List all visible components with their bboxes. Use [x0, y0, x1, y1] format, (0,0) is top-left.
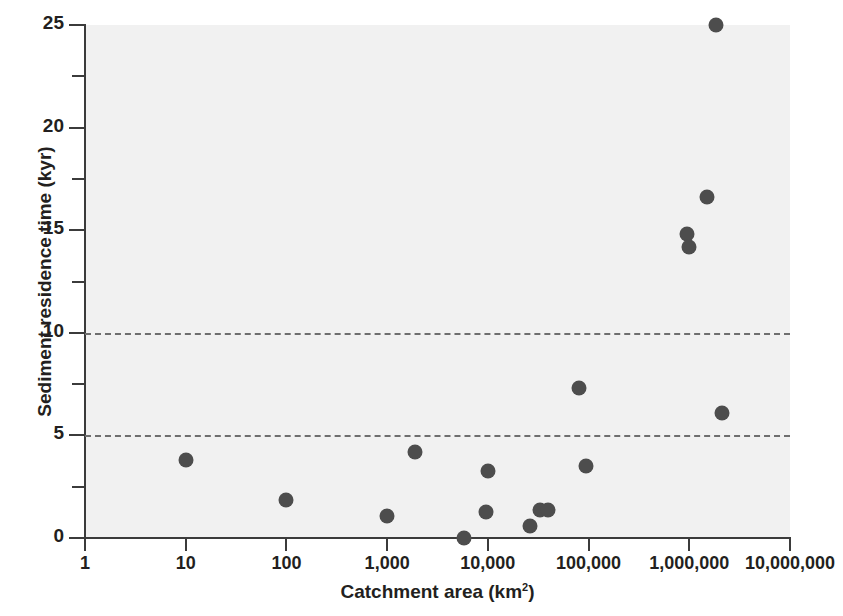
- data-point: [709, 18, 724, 33]
- x-tick-label-1000: 1,000: [365, 553, 410, 574]
- x-tick-100: [285, 538, 287, 551]
- x-axis-title-text: Catchment area (km: [340, 581, 522, 602]
- scatter-chart-figure: 0510152025 1101001,00010,000100,0001,000…: [0, 0, 843, 616]
- data-point: [480, 464, 495, 479]
- data-point: [541, 503, 556, 518]
- x-tick-1000000: [688, 538, 690, 551]
- y-tick-0: [69, 537, 85, 539]
- x-tick-10000: [487, 538, 489, 551]
- x-tick-10000000: [789, 538, 791, 551]
- data-point: [478, 505, 493, 520]
- x-tick-label-1: 1: [80, 553, 90, 574]
- x-axis-title: Catchment area (km2): [85, 581, 790, 603]
- y-tick-minor-17.5: [72, 178, 85, 180]
- x-tick-label-10: 10: [176, 553, 196, 574]
- y-tick-minor-7.5: [72, 383, 85, 385]
- data-point: [682, 239, 697, 254]
- y-tick-minor-22.5: [72, 75, 85, 77]
- x-axis-line: [84, 537, 791, 539]
- x-tick-label-10000: 10,000: [460, 553, 515, 574]
- y-tick-minor-12.5: [72, 281, 85, 283]
- data-point: [457, 531, 472, 546]
- y-tick-20: [69, 127, 85, 129]
- x-tick-100000: [588, 538, 590, 551]
- x-tick-1000: [386, 538, 388, 551]
- x-tick-label-100: 100: [271, 553, 301, 574]
- reference-line-y-10: [85, 333, 790, 335]
- y-tick-minor-2.5: [72, 486, 85, 488]
- x-tick-label-1000000: 1,000,000: [649, 553, 729, 574]
- x-tick-10: [185, 538, 187, 551]
- x-tick-1: [84, 538, 86, 551]
- reference-line-y-5: [85, 435, 790, 437]
- data-point: [408, 444, 423, 459]
- y-tick-25: [69, 24, 85, 26]
- data-point: [579, 459, 594, 474]
- y-tick-5: [69, 434, 85, 436]
- data-point: [380, 509, 395, 524]
- data-point: [571, 381, 586, 396]
- x-axis-title-tail: ): [528, 581, 534, 602]
- data-point: [178, 453, 193, 468]
- y-tick-15: [69, 229, 85, 231]
- y-axis-title: Sediment residence time (kyr): [30, 25, 60, 538]
- data-point: [700, 190, 715, 205]
- data-point: [714, 405, 729, 420]
- data-point: [522, 518, 537, 533]
- y-tick-10: [69, 332, 85, 334]
- x-tick-label-100000: 100,000: [556, 553, 621, 574]
- x-tick-label-10000000: 10,000,000: [745, 553, 835, 574]
- data-point: [279, 493, 294, 508]
